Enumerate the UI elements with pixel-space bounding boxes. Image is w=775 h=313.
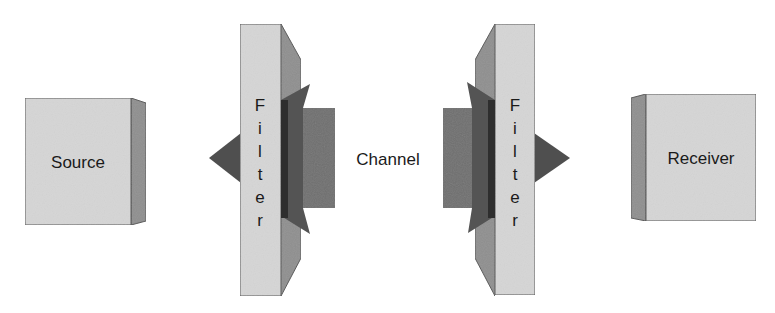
source-label: Source [51, 153, 105, 172]
communication-diagram: Source F i l t e r Channel F i l t [0, 0, 775, 313]
right-arrow-shadow [488, 100, 495, 218]
left-filter-letter: t [258, 165, 263, 184]
right-filter-group [443, 24, 570, 296]
right-arrow-tip [534, 133, 570, 183]
receiver-label: Receiver [667, 149, 734, 168]
right-filter-letter: F [510, 96, 520, 115]
left-filter-letter: i [258, 119, 262, 138]
left-arrow-shadow [281, 100, 288, 218]
receiver-box-side [631, 94, 646, 221]
channel-label: Channel [356, 150, 419, 169]
right-filter-letter: e [510, 188, 519, 207]
right-filter-letter: r [512, 211, 518, 230]
right-filter-letter: l [513, 142, 517, 161]
right-filter-letter: i [513, 119, 517, 138]
left-filter-letter: F [255, 96, 265, 115]
left-filter-group [209, 24, 335, 296]
left-filter-letter: e [255, 188, 264, 207]
left-filter-letter: r [257, 211, 263, 230]
left-arrow-tip [209, 133, 241, 183]
left-filter-letter: l [258, 142, 262, 161]
source-box-side [131, 98, 146, 225]
right-filter-letter: t [513, 165, 518, 184]
